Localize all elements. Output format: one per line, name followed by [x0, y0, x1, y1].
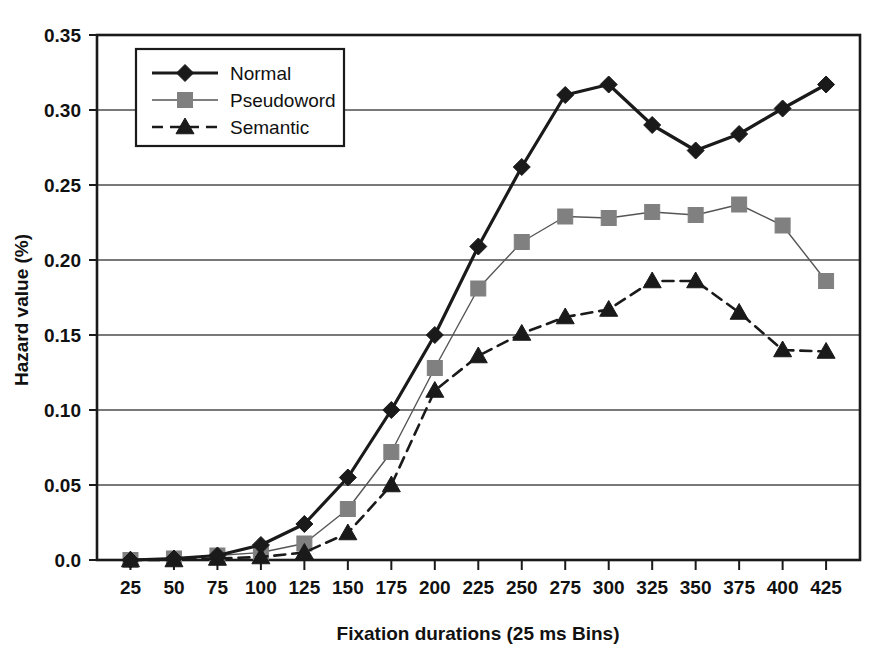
chart-legend: NormalPseudowordSemantic: [136, 49, 344, 146]
x-tick-label: 275: [549, 577, 581, 598]
x-tick-label: 200: [419, 577, 451, 598]
x-tick-label: 100: [245, 577, 277, 598]
legend-label-pseudoword: Pseudoword: [230, 90, 336, 111]
x-tick-label: 150: [332, 577, 364, 598]
x-tick-label: 400: [767, 577, 799, 598]
data-point-square: [340, 502, 355, 517]
y-tick-label: 0.25: [44, 175, 81, 196]
y-tick-label: 0.35: [44, 25, 81, 46]
x-tick-label: 225: [462, 577, 494, 598]
y-tick-label: 0.30: [44, 100, 81, 121]
x-tick-label: 375: [723, 577, 755, 598]
data-point-square: [601, 211, 616, 226]
y-tick-label: 0.15: [44, 325, 81, 346]
data-point-square: [732, 197, 747, 212]
y-axis-title: Hazard value (%): [11, 234, 32, 386]
x-axis-title: Fixation durations (25 ms Bins): [337, 623, 620, 644]
x-tick-label: 425: [810, 577, 842, 598]
data-point-square: [471, 281, 486, 296]
x-tick-label: 25: [120, 577, 142, 598]
data-point-square: [558, 209, 573, 224]
legend-label-semantic: Semantic: [230, 117, 309, 138]
data-point-square: [688, 208, 703, 223]
x-tick-label: 325: [636, 577, 668, 598]
y-tick-label: 0.0: [55, 550, 81, 571]
x-tick-label: 125: [289, 577, 321, 598]
hazard-value-line-chart: 0.00.050.100.150.200.250.300.35 25507510…: [0, 0, 882, 656]
x-tick-label: 300: [593, 577, 625, 598]
x-tick-label: 350: [680, 577, 712, 598]
x-tick-label: 175: [375, 577, 407, 598]
data-point-square: [514, 235, 529, 250]
x-tick-label: 75: [207, 577, 229, 598]
y-tick-label: 0.20: [44, 250, 81, 271]
y-tick-label: 0.05: [44, 475, 81, 496]
data-point-square: [384, 445, 399, 460]
data-point-square: [775, 218, 790, 233]
x-tick-label: 50: [163, 577, 184, 598]
data-point-square: [427, 361, 442, 376]
legend-label-normal: Normal: [230, 63, 291, 84]
x-tick-label: 250: [506, 577, 538, 598]
data-point-square: [819, 274, 834, 289]
y-tick-label: 0.10: [44, 400, 81, 421]
data-point-square: [645, 205, 660, 220]
data-point-square: [178, 93, 193, 108]
chart-page: 0.00.050.100.150.200.250.300.35 25507510…: [0, 0, 882, 656]
